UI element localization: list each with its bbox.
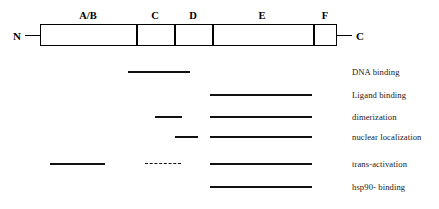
function-segment-hsp90-binding-1: [210, 186, 312, 188]
domain-label-ab: A/B: [68, 11, 108, 22]
c-terminus-label: C: [356, 31, 364, 42]
domain-label-f: F: [310, 11, 340, 22]
nuclear-receptor-domain-diagram: N A/B C D E F C DNA binding Ligand bindi…: [0, 0, 439, 209]
domain-divider-ab-c: [136, 24, 138, 46]
function-label-dimerization: dimerization: [352, 113, 397, 122]
domain-label-d: D: [178, 11, 208, 22]
domain-divider-d-e: [212, 24, 214, 46]
function-label-hsp90-binding: hsp90- binding: [352, 183, 405, 192]
n-terminus-label: N: [13, 31, 21, 42]
function-label-dna-binding: DNA binding: [352, 68, 400, 77]
function-label-nuclear-localization: nuclear localization: [352, 133, 422, 142]
function-label-trans-activation: trans-activation: [352, 160, 407, 169]
function-segment-ligand-binding-1: [210, 94, 312, 96]
function-segment-trans-activation-3: [210, 163, 312, 165]
function-segment-nuclear-localization-1: [175, 136, 198, 138]
c-terminus-tail: [337, 35, 352, 37]
function-segment-dimerization-1: [155, 116, 182, 118]
domain-divider-c-d: [174, 24, 176, 46]
domain-label-e: E: [247, 11, 277, 22]
function-segment-trans-activation-2-dashed: [145, 163, 181, 164]
function-label-ligand-binding: Ligand binding: [352, 91, 406, 100]
domain-divider-e-f: [313, 24, 315, 46]
function-segment-trans-activation-1: [50, 163, 105, 165]
n-terminus-tail: [25, 35, 40, 37]
function-segment-dimerization-2: [210, 116, 312, 118]
receptor-domain-box: [40, 24, 337, 46]
domain-label-c: C: [140, 11, 170, 22]
function-segment-dna-binding-1: [128, 71, 190, 73]
function-segment-nuclear-localization-2: [210, 136, 312, 138]
